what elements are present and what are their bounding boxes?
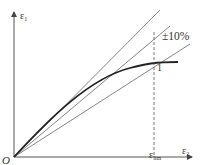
tolerance-label: ±10% bbox=[162, 31, 189, 43]
limit-subscript: lim bbox=[153, 155, 161, 161]
nominal-line bbox=[14, 26, 170, 157]
x-axis-label: ε2 bbox=[182, 146, 189, 157]
diagram-canvas: O ε1 ε2 ±10% 1 εlim bbox=[0, 0, 200, 165]
diagram-svg bbox=[0, 0, 200, 165]
y-axis-label: ε1 bbox=[20, 11, 27, 22]
response-curve bbox=[14, 62, 178, 157]
x-axis-subscript: 2 bbox=[186, 151, 189, 157]
origin-label: O bbox=[2, 155, 10, 165]
y-axis-subscript: 1 bbox=[24, 16, 27, 22]
point-label: 1 bbox=[157, 63, 162, 73]
limit-label: εlim bbox=[149, 150, 161, 161]
lower-bound-line bbox=[14, 44, 190, 157]
